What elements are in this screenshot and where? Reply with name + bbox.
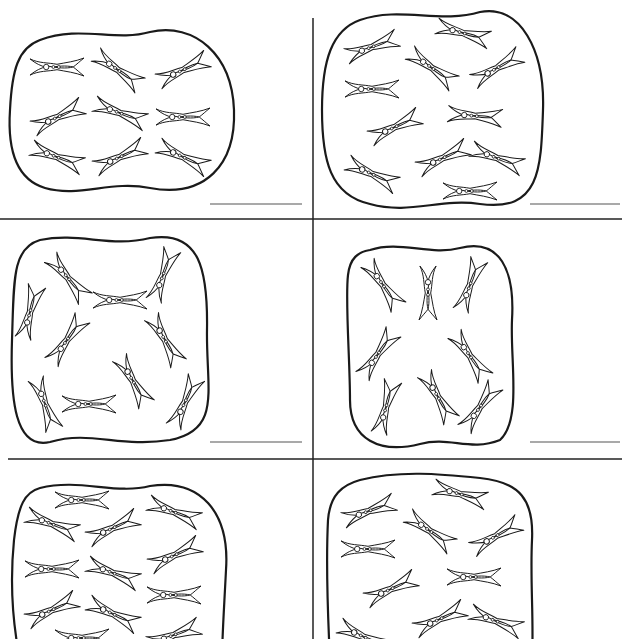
clothespin-icon: [147, 586, 201, 604]
clothespin-icon: [85, 594, 142, 633]
clothespin-icon: [30, 58, 84, 76]
clothespin-icon: [341, 540, 395, 558]
clothespin-icon: [55, 491, 109, 509]
clothespin-icon: [417, 369, 460, 425]
clothespin-icon: [344, 154, 401, 193]
clothespin-icon: [355, 327, 401, 382]
clothespin-icon: [419, 266, 437, 320]
clothespin-icon: [146, 494, 203, 529]
clothespin-icon: [44, 313, 90, 368]
clothespin-icon: [93, 291, 147, 309]
clothespin-icon: [370, 379, 401, 436]
clothespin-icon: [367, 107, 424, 146]
panel-4: [347, 246, 620, 447]
group-boundary: [327, 474, 532, 639]
clothespin-icon: [468, 603, 525, 638]
clothespin-icon: [147, 535, 204, 574]
clothespin-icon: [85, 555, 142, 590]
clothespin-icon: [25, 560, 79, 578]
group-boundary: [322, 11, 543, 208]
clothespin-icon: [403, 508, 458, 554]
clothespin-icon: [435, 17, 492, 48]
clothespin-icon: [341, 493, 398, 528]
panel-5: [12, 485, 226, 639]
panel-6: [327, 474, 532, 639]
clothespin-icon: [447, 568, 501, 586]
clothespin-icon: [112, 353, 155, 409]
clothespin-icon: [27, 376, 62, 433]
clothespin-icon: [85, 508, 142, 547]
clothespin-icon: [457, 380, 503, 435]
panel-2: [322, 11, 620, 208]
panels-container: [10, 11, 620, 639]
clothespin-icon: [415, 138, 472, 177]
clothespin-icon: [447, 329, 493, 384]
clothespin-icon: [55, 629, 109, 639]
panel-3: [12, 237, 302, 443]
clothespin-icon: [24, 590, 81, 629]
clothespin-icon: [145, 247, 180, 304]
clothespin-icon: [165, 374, 204, 431]
clothespin-icon: [360, 258, 406, 313]
clothespin-icon: [469, 140, 526, 175]
clothespin-icon: [14, 284, 45, 341]
clothespin-icon: [469, 47, 525, 90]
clothespin-icon: [62, 395, 116, 413]
clothespin-icon: [405, 45, 460, 91]
clothespin-icon: [156, 108, 210, 126]
panel-1: [10, 30, 302, 204]
clothespin-icon: [146, 617, 203, 639]
clothespin-icon: [344, 29, 401, 64]
clothespin-icon: [452, 257, 487, 314]
clothespin-icon: [44, 252, 92, 305]
clothespin-icon: [443, 182, 497, 200]
clothespin-icon: [91, 47, 146, 93]
clothespin-icon: [432, 478, 489, 509]
clothespin-icon: [447, 105, 502, 128]
clothespin-icon: [92, 95, 149, 130]
clothespin-icon: [155, 137, 212, 176]
counting-worksheet: [0, 0, 637, 639]
clothespin-icon: [412, 599, 469, 638]
clothespin-icon: [24, 506, 81, 541]
clothespin-icon: [144, 312, 187, 368]
clothespin-icon: [363, 569, 420, 608]
clothespin-icon: [155, 50, 212, 89]
clothespin-icon: [336, 617, 393, 639]
clothespin-icon: [92, 137, 149, 176]
clothespin-icon: [30, 97, 87, 136]
clothespin-icon: [345, 80, 399, 98]
clothespin-icon: [29, 139, 86, 174]
clothespin-icon: [468, 515, 524, 558]
